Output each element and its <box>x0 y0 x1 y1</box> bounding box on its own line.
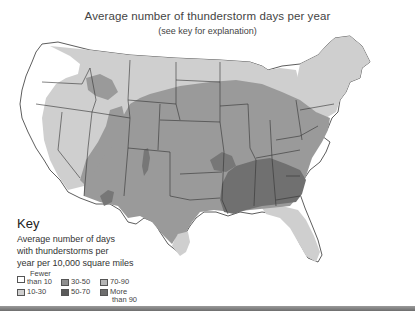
key-description: Average number of days with thunderstorm… <box>17 233 157 269</box>
key-title: Key <box>17 216 39 231</box>
swatch-50-70 <box>61 289 69 296</box>
legend-item-more-than-90: More than 90 <box>100 288 137 304</box>
swatch-70-90 <box>100 279 108 286</box>
legend-label-line: than 10 <box>27 278 52 286</box>
swatch-30-50 <box>61 279 69 286</box>
legend-item-10-30: 10-30 <box>17 288 46 296</box>
legend-label: 70-90 <box>110 278 129 286</box>
legend-label: More than 90 <box>110 288 137 304</box>
legend-label: Fewer than 10 <box>27 270 52 286</box>
key-description-line: year per 10,000 square miles <box>17 257 157 269</box>
swatch-10-30 <box>17 289 25 296</box>
legend-label: 10-30 <box>27 288 46 296</box>
key-description-line: Average number of days <box>17 233 157 245</box>
legend-label-line: than 90 <box>110 296 137 304</box>
legend-label: 30-50 <box>71 278 90 286</box>
legend-item-fewer-than-10: Fewer than 10 <box>17 270 52 286</box>
legend-item-70-90: 70-90 <box>100 278 129 286</box>
swatch-more-than-90 <box>100 289 108 296</box>
key-description-line: with thunderstorms per <box>17 245 157 257</box>
legend-label: 50-70 <box>71 288 90 296</box>
bottom-divider-bar <box>0 306 415 311</box>
legend-item-50-70: 50-70 <box>61 288 90 296</box>
zone-10-30-florida <box>262 206 320 262</box>
swatch-fewer-than-10 <box>17 276 25 283</box>
legend-item-30-50: 30-50 <box>61 278 90 286</box>
